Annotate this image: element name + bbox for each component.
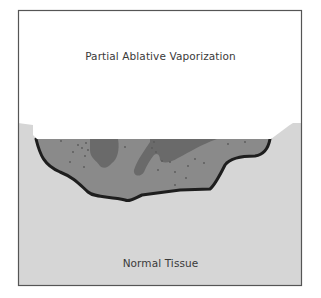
diagram: Partial Ablative Vaporization Normal Tis… [0, 0, 321, 298]
normal-tissue-label: Normal Tissue [0, 257, 321, 269]
vaporized-area [18, 10, 302, 139]
tissue-diagram-graphic [0, 0, 321, 298]
vaporization-label: Partial Ablative Vaporization [0, 50, 321, 62]
